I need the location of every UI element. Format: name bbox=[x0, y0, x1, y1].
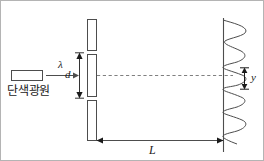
barrier-plate-middle bbox=[88, 55, 97, 97]
barrier-plate-bottom bbox=[88, 101, 97, 141]
figure-canvas bbox=[1, 1, 264, 161]
barrier-plate-top bbox=[88, 20, 97, 51]
light-source-label: 단색광원 bbox=[7, 85, 50, 97]
screen-distance-dimension bbox=[97, 138, 224, 144]
double-slit-figure: λ 단색광원 d y L bbox=[0, 0, 264, 161]
fringe-spacing-dimension bbox=[240, 68, 249, 90]
wavelength-label: λ bbox=[58, 59, 63, 70]
screen-distance-label: L bbox=[149, 144, 156, 156]
incident-ray-arrow bbox=[46, 72, 79, 78]
slit-separation-label: d bbox=[65, 69, 71, 80]
double-slit-barrier bbox=[88, 20, 97, 141]
fringe-spacing-label: y bbox=[251, 72, 256, 83]
light-source-box bbox=[12, 71, 43, 81]
interference-pattern-curve bbox=[223, 20, 246, 144]
